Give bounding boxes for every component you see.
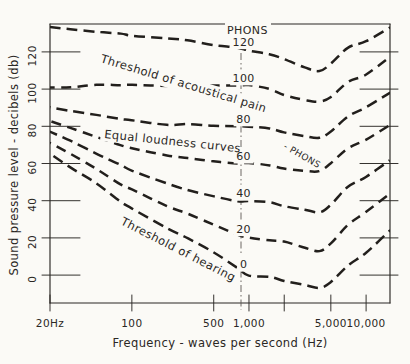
- y-tick-label-20: 20: [26, 235, 38, 249]
- x-tick-label-10000: 10,000: [347, 317, 386, 329]
- y-tick-label-100: 100: [26, 82, 38, 103]
- curve-label-40: 40: [236, 187, 251, 200]
- y-tick-label-120: 120: [26, 45, 38, 66]
- phons-unit-label-120: PHONS: [227, 24, 268, 37]
- y-tick-label-40: 40: [26, 198, 38, 212]
- curve-label-100: 100: [233, 72, 255, 85]
- x-tick-label-500: 500: [203, 317, 224, 329]
- curve-label-0: 0: [240, 258, 247, 271]
- figure-container: 020406080100120 20Hz1005001,0005,00010,0…: [0, 0, 410, 364]
- y-axis-title: Sound pressure level - decibels (db): [7, 54, 21, 275]
- curve-label-20: 20: [236, 223, 251, 236]
- x-axis-title: Frequency - waves per second (Hz): [112, 336, 327, 350]
- x-tick-label-1000: 1,000: [233, 317, 265, 329]
- y-tick-label-80: 80: [26, 123, 38, 137]
- curve-label-120: 120: [233, 36, 255, 49]
- x-tick-label-100: 100: [121, 317, 142, 329]
- chart-background: [0, 0, 410, 364]
- x-tick-label-20: 20Hz: [36, 317, 64, 329]
- equal-loudness-chart: 020406080100120 20Hz1005001,0005,00010,0…: [0, 0, 410, 364]
- y-tick-label-0: 0: [26, 276, 38, 283]
- y-tick-label-60: 60: [26, 160, 38, 174]
- x-tick-label-5000: 5,000: [315, 317, 347, 329]
- curve-label-80: 80: [236, 113, 251, 126]
